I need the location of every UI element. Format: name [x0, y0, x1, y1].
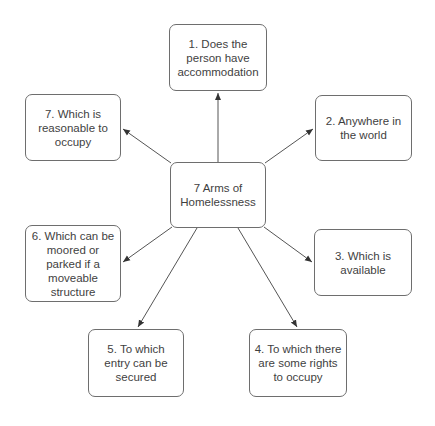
arm-node-1: 1. Does the person have accommodation: [169, 24, 267, 91]
arrow-to-arm-7: [123, 129, 171, 163]
center-node-label: 7 Arms of Homelessness: [175, 181, 261, 209]
arm-4-label: 4. To which there are some rights to occ…: [254, 342, 342, 384]
arm-1-label: 1. Does the person have accommodation: [174, 37, 262, 79]
arrow-to-arm-2: [265, 129, 313, 163]
arm-2-label: 2. Anywhere in the world: [320, 114, 407, 142]
arm-node-7: 7. Which is reasonable to occupy: [25, 94, 121, 161]
arm-3-label: 3. Which is available: [319, 249, 407, 277]
arm-node-2: 2. Anywhere in the world: [315, 95, 412, 161]
arm-5-label: 5. To which entry can be secured: [93, 342, 179, 384]
center-node: 7 Arms of Homelessness: [170, 162, 266, 228]
arrow-to-arm-4: [238, 228, 297, 327]
arm-node-3: 3. Which is available: [314, 229, 412, 296]
arm-6-label: 6. Which can be moored or parked if a mo…: [30, 229, 116, 299]
arm-node-6: 6. Which can be moored or parked if a mo…: [25, 225, 121, 302]
arm-7-label: 7. Which is reasonable to occupy: [30, 107, 116, 149]
arrow-to-arm-3: [264, 227, 312, 262]
arrow-to-arm-5: [138, 228, 197, 327]
arm-node-4: 4. To which there are some rights to occ…: [249, 329, 347, 397]
diagram-canvas: 7 Arms of Homelessness 1. Does the perso…: [0, 0, 435, 426]
arrow-to-arm-6: [123, 227, 172, 262]
arm-node-5: 5. To which entry can be secured: [88, 329, 184, 397]
